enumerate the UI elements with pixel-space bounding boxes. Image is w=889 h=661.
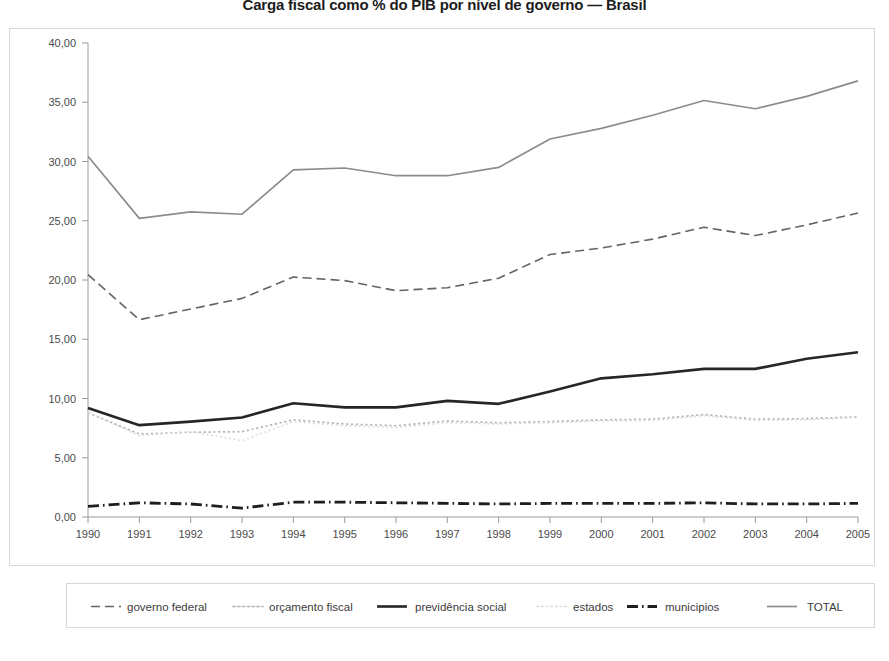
y-tick-label: 40,00 <box>48 37 76 49</box>
x-tick-label: 2005 <box>846 528 870 540</box>
y-tick-label: 10,00 <box>48 393 76 405</box>
series-line-estados <box>88 412 858 440</box>
legend-label-total: TOTAL <box>807 601 844 613</box>
x-tick-label: 1992 <box>178 528 202 540</box>
series-line-or-amento-fiscal <box>88 413 858 434</box>
x-tick-label: 2000 <box>589 528 613 540</box>
x-tick-label: 2001 <box>640 528 664 540</box>
legend-label-previd-ncia-social: previdência social <box>415 601 506 613</box>
series-line-total <box>88 81 858 218</box>
x-tick-label: 1990 <box>76 528 100 540</box>
x-tick-label: 2002 <box>692 528 716 540</box>
chart-plot-area: 0,005,0010,0015,0020,0025,0030,0035,0040… <box>9 28 875 566</box>
y-tick-label: 20,00 <box>48 274 76 286</box>
y-tick-label: 30,00 <box>48 156 76 168</box>
x-tick-label: 2004 <box>794 528 818 540</box>
x-tick-label: 1998 <box>486 528 510 540</box>
y-tick-label: 35,00 <box>48 96 76 108</box>
line-chart-svg: 0,005,0010,0015,0020,0025,0030,0035,0040… <box>10 29 874 565</box>
x-tick-label: 1999 <box>538 528 562 540</box>
y-tick-label: 25,00 <box>48 215 76 227</box>
legend-label-municipios: municipios <box>665 601 720 613</box>
legend-svg: governo federalorçamento fiscalprevidênc… <box>67 584 874 627</box>
x-tick-label: 1996 <box>384 528 408 540</box>
x-tick-label: 1991 <box>127 528 151 540</box>
series-line-municipios <box>88 502 858 508</box>
x-tick-label: 2003 <box>743 528 767 540</box>
series-line-governo-federal <box>88 213 858 320</box>
y-tick-label: 5,00 <box>55 452 76 464</box>
y-tick-label: 15,00 <box>48 333 76 345</box>
chart-legend: governo federalorçamento fiscalprevidênc… <box>66 583 875 628</box>
page-title: Carga fiscal como % do PIB por nível de … <box>0 0 889 13</box>
legend-label-or-amento-fiscal: orçamento fiscal <box>269 601 353 613</box>
x-tick-label: 1993 <box>230 528 254 540</box>
x-tick-label: 1995 <box>332 528 356 540</box>
legend-label-governo-federal: governo federal <box>127 601 207 613</box>
x-tick-label: 1997 <box>435 528 459 540</box>
x-tick-label: 1994 <box>281 528 305 540</box>
legend-label-estados: estados <box>573 601 614 613</box>
y-tick-label: 0,00 <box>55 511 76 523</box>
series-line-previd-ncia-social <box>88 352 858 425</box>
